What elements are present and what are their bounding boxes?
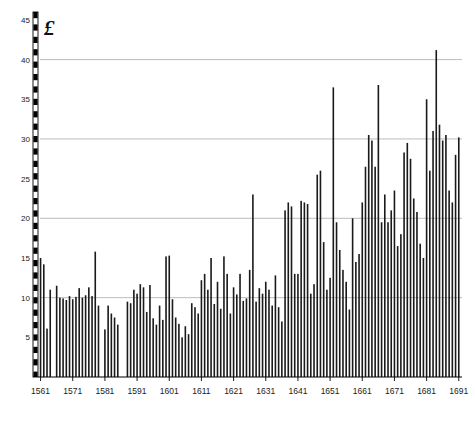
- y-tick-label-group: 51015202530354045: [21, 16, 30, 342]
- bar: [413, 198, 415, 377]
- bar: [197, 314, 199, 377]
- bar: [40, 258, 42, 377]
- bar: [181, 337, 183, 377]
- y-axis-block: [33, 310, 37, 316]
- y-axis-block: [33, 297, 37, 303]
- bar: [452, 202, 454, 377]
- bar: [236, 294, 238, 377]
- bar: [435, 50, 437, 377]
- y-tick-label: 45: [21, 16, 30, 25]
- bar: [191, 303, 193, 377]
- y-tick-label: 35: [21, 95, 30, 104]
- bar: [249, 270, 251, 377]
- bar: [294, 274, 296, 377]
- y-tick-label: 40: [21, 56, 30, 65]
- bar: [168, 256, 170, 377]
- bar: [213, 304, 215, 377]
- y-axis-block: [33, 62, 37, 68]
- bar: [217, 282, 219, 377]
- y-axis-block: [33, 49, 37, 55]
- chart-container: £ 51015202530354045156115711581159116011…: [0, 0, 473, 422]
- y-tick-label: 10: [21, 294, 30, 303]
- bar: [423, 258, 425, 377]
- y-axis-block: [33, 161, 37, 167]
- bar: [304, 202, 306, 377]
- bar-chart-plot: 5101520253035404515611571158115911601161…: [0, 0, 473, 422]
- bar: [156, 325, 158, 377]
- bar: [56, 286, 58, 377]
- bar: [98, 306, 100, 377]
- bar: [358, 254, 360, 377]
- bar: [329, 278, 331, 377]
- y-axis-block: [33, 37, 37, 43]
- bar: [271, 306, 273, 377]
- y-axis-block: [33, 74, 37, 80]
- bar: [448, 191, 450, 377]
- bar: [361, 202, 363, 377]
- bar: [349, 310, 351, 377]
- bar: [242, 301, 244, 377]
- y-axis-block: [33, 111, 37, 117]
- y-axis-block: [33, 334, 37, 340]
- y-axis-block: [33, 198, 37, 204]
- bar: [66, 300, 68, 377]
- bar: [316, 175, 318, 377]
- x-tick-label-group: 1561157115811591160116111621163116411651…: [31, 377, 468, 396]
- bar: [345, 282, 347, 377]
- bar: [384, 195, 386, 378]
- bar: [262, 294, 264, 377]
- y-axis-block: [33, 24, 37, 30]
- bar: [82, 298, 84, 377]
- bar: [410, 159, 412, 377]
- bar: [246, 298, 248, 377]
- y-axis-block: [33, 359, 37, 365]
- bar: [429, 171, 431, 377]
- x-tick-label: 1661: [353, 386, 372, 396]
- y-axis-block: [33, 260, 37, 266]
- y-tick-label: 30: [21, 135, 30, 144]
- bar: [326, 290, 328, 377]
- bar: [291, 206, 293, 377]
- bar: [419, 244, 421, 377]
- bar: [226, 274, 228, 377]
- y-axis-block: [33, 124, 37, 130]
- bar: [287, 202, 289, 377]
- bar: [439, 125, 441, 377]
- x-tick-label: 1581: [95, 386, 114, 396]
- y-axis-block: [33, 322, 37, 328]
- bar: [307, 204, 309, 377]
- bar: [78, 288, 80, 377]
- bar: [445, 135, 447, 377]
- y-axis-block: [33, 148, 37, 154]
- bar: [281, 321, 283, 377]
- bar: [455, 155, 457, 377]
- bar: [178, 324, 180, 377]
- bar: [390, 210, 392, 377]
- bar: [342, 270, 344, 377]
- bar: [432, 131, 434, 377]
- bar: [69, 296, 71, 377]
- x-tick-label: 1691: [449, 386, 468, 396]
- y-axis-block: [33, 248, 37, 254]
- x-tick-label: 1601: [160, 386, 179, 396]
- bar: [165, 256, 167, 377]
- y-axis-block: [33, 347, 37, 353]
- bar: [127, 302, 129, 377]
- bar: [111, 314, 113, 377]
- bar: [107, 306, 109, 377]
- bar: [104, 329, 106, 377]
- y-tick-label: 20: [21, 214, 30, 223]
- x-tick-label: 1571: [63, 386, 82, 396]
- bar: [320, 171, 322, 377]
- bar: [368, 135, 370, 377]
- bar-group: [40, 50, 460, 377]
- bar: [259, 288, 261, 377]
- bar: [72, 299, 74, 377]
- bar: [374, 167, 376, 377]
- bar: [278, 307, 280, 377]
- bar: [381, 222, 383, 377]
- bar: [185, 326, 187, 377]
- y-tick-label: 5: [26, 333, 31, 342]
- y-tick-label: 25: [21, 175, 30, 184]
- bar: [275, 275, 277, 377]
